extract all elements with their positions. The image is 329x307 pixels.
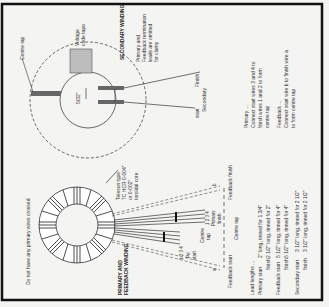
centre-tap-mid-2: tap xyxy=(205,233,211,240)
toroid-inner xyxy=(56,204,98,246)
lead-row-label: Secondary start xyxy=(294,259,300,295)
secondary-winding-title: SECONDARY WINDING xyxy=(119,5,125,60)
pri-start-label-2: start xyxy=(192,250,197,260)
lead-b-label: b xyxy=(212,183,217,186)
wire-numbers-start: 1 2 3 4 xyxy=(179,246,184,260)
primary-connection-line-3: centre tap xyxy=(264,106,270,128)
primary-finish-label-1: Primary xyxy=(211,210,216,226)
feedback-start-label: Feedback start xyxy=(227,254,233,288)
lead-row-label: finish xyxy=(265,258,271,270)
primary-connection-line-1: Connect start wires 3 and 4 to xyxy=(250,61,256,128)
lead-row-label: finish xyxy=(302,258,308,270)
feedback-connection-line-1: Connect start wire b to finish wire a xyxy=(283,50,289,128)
centre-tap-label: Centre tap xyxy=(19,36,25,60)
finish-pointer xyxy=(124,72,200,88)
pri-start-bus xyxy=(163,232,165,242)
lead-lengths-table: Primary start 2" long, tinned for 1 3/4"… xyxy=(257,190,308,295)
lead-row-value: 2 1/2" long, tinned for 2" xyxy=(265,204,271,258)
primary-leads xyxy=(114,210,205,244)
lead-row-label: Feedback start xyxy=(275,261,281,295)
frame-border xyxy=(2,4,322,300)
voltage-tape-label-2: code tape xyxy=(80,24,86,46)
feedback-connection-heading: Feedback ... xyxy=(276,100,282,128)
centre-tap-bottom-label: Centre tap xyxy=(233,216,239,240)
diagram-page: Centre tap Voltage code tape 5/32" SECON… xyxy=(0,0,329,307)
lead-row-value: 2" long, tinned for 1 3/4" xyxy=(257,204,263,258)
lead-row-value: 5 1/2" long, tinned for 4" xyxy=(283,204,289,258)
primary-feedback-title-2: FEEDBACK WINDING xyxy=(123,244,129,295)
primary-connection-line-2: finish wires 1 and 2 to form xyxy=(257,68,263,128)
feedback-finish-label: Feedback finish xyxy=(227,165,233,200)
lead-row-value: 5 1/2" long, tinned for 4" xyxy=(275,204,281,258)
pri-start-label-1: Pri xyxy=(186,253,191,259)
secondary-start-lead xyxy=(98,100,124,104)
secondary-winding-figure xyxy=(22,42,200,158)
voltage-code-tape xyxy=(70,49,92,73)
lead-row-label: Primary start xyxy=(257,266,263,295)
core-label-4: toroidal core xyxy=(133,172,139,200)
primary-winding-toroid xyxy=(39,187,115,263)
wire-numbers-finish: 1 2 3 4 xyxy=(205,211,210,225)
gap-dimension: 5/32" xyxy=(75,92,81,104)
secondary-finish-lead xyxy=(98,86,124,90)
transformer-winding-diagram: Centre tap Voltage code tape 5/32" SECON… xyxy=(0,0,329,307)
primary-connection-heading: Primary ... xyxy=(243,105,249,128)
lead-row-value: 3 1/2" long, tinned for 2 1/2" xyxy=(302,190,308,252)
centre-tap-lead xyxy=(31,91,61,96)
secondary-label: Secondary xyxy=(201,88,207,112)
primary-finish-label-2: finish xyxy=(217,213,222,224)
feedback-connection-line-2: to form centre tap xyxy=(290,89,296,128)
omitted-note-line-4: for clarity xyxy=(153,41,159,62)
warning-no-crossed-wires: Do not have any primary wires crossed xyxy=(25,198,31,285)
lead-row-value: 3 1/2" long, tinned for 2 1/2" xyxy=(294,190,300,252)
lead-lengths-heading: Lead lengths ... xyxy=(249,261,255,295)
secondary-start-label: start xyxy=(194,108,200,118)
lead-row-label: finish xyxy=(283,258,289,270)
secondary-finish-label: Finish xyxy=(194,73,200,87)
start-pointer xyxy=(124,102,195,108)
primary-finish-bus xyxy=(175,212,177,222)
centre-tap-pointer xyxy=(22,58,33,92)
